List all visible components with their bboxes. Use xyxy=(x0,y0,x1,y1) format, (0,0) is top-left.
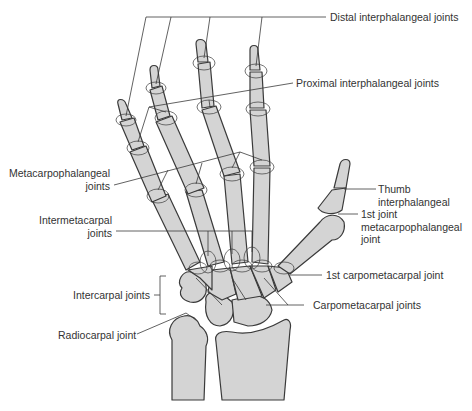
label-mcp-line2: joints xyxy=(6,180,110,193)
radius-bone xyxy=(216,319,291,400)
label-distal-interphalangeal: Distal interphalangeal joints xyxy=(330,11,458,24)
middle-finger xyxy=(196,40,240,177)
label-first-carpometacarpal: 1st carpometacarpal joint xyxy=(326,269,443,282)
index-finger xyxy=(250,46,270,167)
carpal-bones xyxy=(180,266,292,326)
label-first-mcp-line2: metacarpophalangeal xyxy=(361,221,462,234)
label-mcp-line1: Metacarpophalangeal xyxy=(6,167,110,180)
label-first-mcp-line1: 1st xyxy=(361,208,462,221)
label-first-metacarpophalangeal: 1st metacarpophalangeal joint xyxy=(361,208,462,246)
label-intermetacarpal-line1: Intermetacarpal xyxy=(6,214,112,227)
label-intermetacarpal-line2: joints xyxy=(6,227,112,240)
label-thumb-ip-line2: interphalangeal xyxy=(378,196,450,209)
ulna-bone xyxy=(170,316,208,400)
label-intercarpal: Intercarpal joints xyxy=(73,289,150,302)
label-radiocarpal: Radiocarpal joint xyxy=(58,329,136,342)
label-proximal-interphalangeal: Proximal interphalangeal joints xyxy=(296,77,439,90)
label-metacarpophalangeal: Metacarpophalangeal joints xyxy=(6,167,110,192)
label-first-mcp-line3: joint xyxy=(361,233,462,246)
label-carpometacarpal: Carpometacarpal joints xyxy=(313,299,421,312)
label-intermetacarpal: Intermetacarpal joints xyxy=(6,214,112,239)
metacarpal-bones xyxy=(152,168,344,274)
label-thumb-ip-line1: Thumb xyxy=(378,183,450,196)
thumb xyxy=(318,160,350,214)
